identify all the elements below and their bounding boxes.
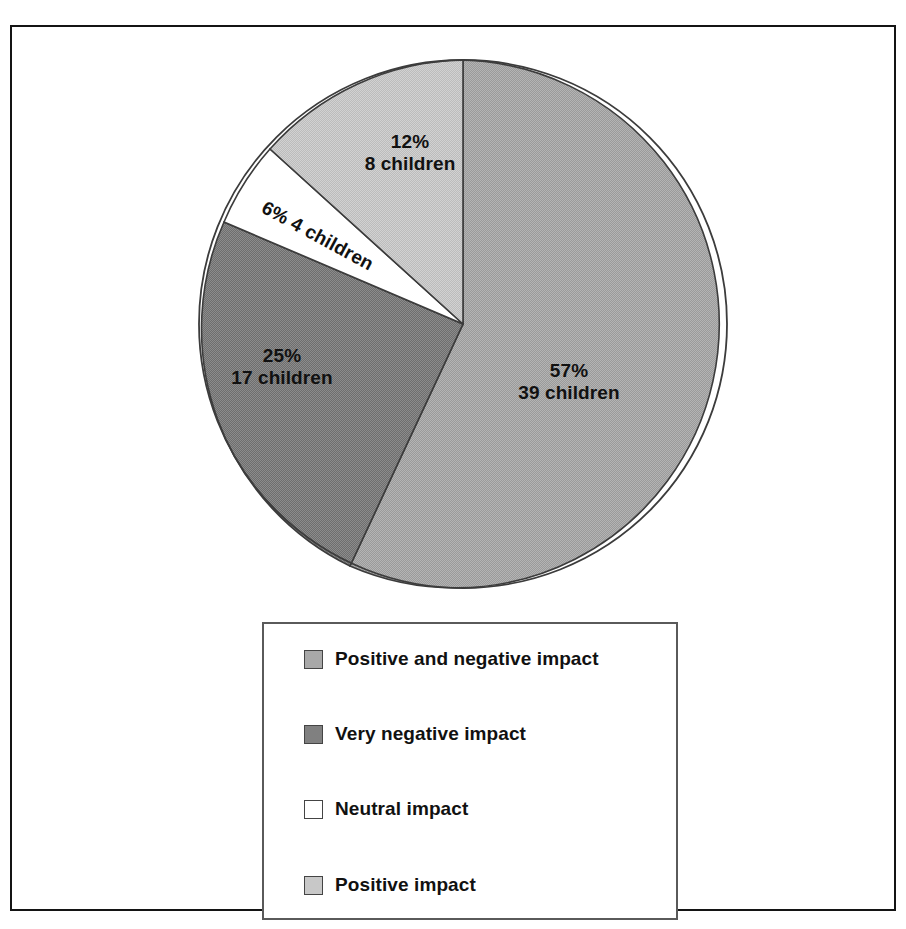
- pie-label-count: 8 children: [345, 153, 475, 175]
- legend-swatch-very-negative-impact: [304, 725, 323, 744]
- pie-label-count: 4 children: [287, 213, 377, 275]
- pie-slice-positive-impact[interactable]: [270, 60, 463, 324]
- legend-item-positive-impact[interactable]: Positive impact: [304, 874, 476, 896]
- pie-label-percent: 25%: [212, 345, 352, 367]
- pie-slice-very-negative-impact[interactable]: [202, 222, 463, 566]
- legend-swatch-neutral-impact: [304, 800, 323, 819]
- figure-frame: 57% 39 children 25% 17 children 6% 4 chi…: [10, 25, 896, 911]
- legend-label-very-negative-impact: Very negative impact: [335, 723, 526, 745]
- pie-label-percent: 57%: [504, 360, 634, 382]
- legend-label-positive-and-negative-impact: Positive and negative impact: [335, 648, 599, 670]
- legend-swatch-positive-impact: [304, 876, 323, 895]
- legend-item-neutral-impact[interactable]: Neutral impact: [304, 798, 468, 820]
- legend-item-very-negative-impact[interactable]: Very negative impact: [304, 723, 526, 745]
- pie-label-very-negative-impact: 25% 17 children: [212, 345, 352, 389]
- legend-swatch-positive-and-negative-impact: [304, 650, 323, 669]
- pie-label-count: 17 children: [212, 367, 352, 389]
- pie-label-positive-impact: 12% 8 children: [345, 131, 475, 175]
- legend-label-neutral-impact: Neutral impact: [335, 798, 468, 820]
- pie-label-percent: 12%: [345, 131, 475, 153]
- legend-label-positive-impact: Positive impact: [335, 874, 476, 896]
- pie-label-count: 39 children: [504, 382, 634, 404]
- pie-label-neutral-impact: 6% 4 children: [218, 175, 417, 297]
- pie-slice-neutral-impact[interactable]: [224, 149, 463, 324]
- pie-label-positive-and-negative-impact: 57% 39 children: [504, 360, 634, 404]
- legend: Positive and negative impact Very negati…: [262, 622, 678, 920]
- legend-item-positive-and-negative-impact[interactable]: Positive and negative impact: [304, 648, 599, 670]
